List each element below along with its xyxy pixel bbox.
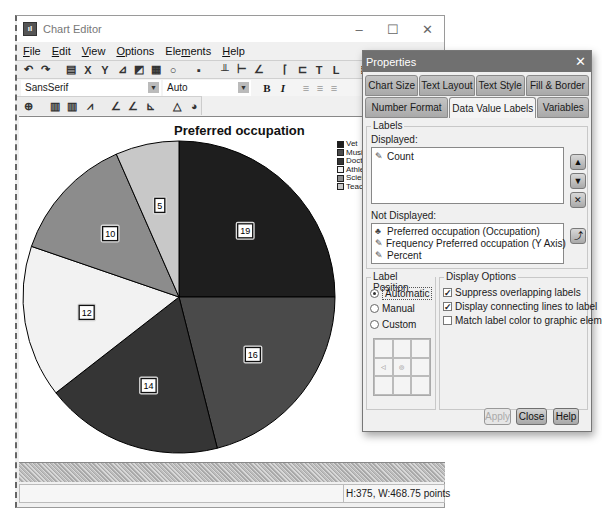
italic-button[interactable]: I <box>275 82 291 94</box>
fill-icon[interactable]: ▦ <box>149 63 163 76</box>
add-to-displayed-button[interactable]: ⤴ <box>570 228 586 244</box>
close-button[interactable]: Close <box>516 408 547 425</box>
apply-button[interactable]: Apply <box>484 408 511 425</box>
custom-position-grid[interactable]: ◁ ◎ <box>373 338 431 396</box>
close-window-button[interactable]: ✕ <box>410 16 444 42</box>
list-item[interactable]: ✎ Frequency Preferred occupation (Y Axis… <box>372 237 563 249</box>
fit-line-icon[interactable]: ∠ <box>252 63 266 76</box>
checkbox-checked[interactable]: ✓ <box>443 302 452 311</box>
font-size-select[interactable]: Auto ▼ <box>163 80 251 96</box>
svg-text:16: 16 <box>248 350 258 360</box>
area-icon[interactable]: ⊾ <box>144 100 157 113</box>
font-size-value: Auto <box>167 82 188 93</box>
select-icon[interactable]: ▪ <box>192 63 206 76</box>
radio-automatic[interactable]: Automatic <box>370 287 432 300</box>
position-cell[interactable] <box>393 339 412 358</box>
close-icon[interactable]: ✕ <box>569 54 591 69</box>
match-label-color-checkbox[interactable]: Match label color to graphic element <box>443 315 602 326</box>
menu-options[interactable]: Options <box>113 45 162 57</box>
radio-button[interactable] <box>370 320 379 329</box>
properties-title-bar[interactable]: Properties ✕ <box>363 51 591 72</box>
clustered-bar-icon[interactable]: ▥ <box>66 100 79 113</box>
data-label[interactable]: 14 <box>139 377 158 395</box>
undo-icon[interactable]: ↶ <box>21 63 35 76</box>
ref-line-x-icon[interactable]: ⊢ <box>235 63 249 76</box>
position-inside-icon[interactable]: ◎ <box>393 358 412 377</box>
not-displayed-list[interactable]: ♣ Preferred occupation (Occupation) ✎ Fr… <box>371 223 564 264</box>
radio-manual[interactable]: Manual <box>370 303 415 314</box>
tab-chart-size[interactable]: Chart Size <box>365 75 418 96</box>
tab-text-style[interactable]: Text Style <box>476 75 525 96</box>
list-item[interactable]: ✎ Count <box>372 150 563 162</box>
position-cell[interactable] <box>411 339 430 358</box>
menu-help[interactable]: Help <box>219 45 253 57</box>
maximize-button[interactable]: ☐ <box>376 16 410 42</box>
checkbox-unchecked[interactable] <box>443 316 452 325</box>
footnote-icon[interactable]: L <box>329 63 343 76</box>
chevron-down-icon[interactable]: ▼ <box>148 82 159 93</box>
position-cell[interactable] <box>393 376 412 395</box>
position-outside-icon[interactable]: ◁ <box>374 358 393 377</box>
align-center-icon[interactable]: ≡ <box>313 81 327 94</box>
scatter-icon[interactable]: ∠ <box>110 100 123 113</box>
scale-alt-icon[interactable]: ◩ <box>132 63 146 76</box>
redo-icon[interactable]: ↷ <box>38 63 52 76</box>
title-icon[interactable]: ⌈ <box>278 63 292 76</box>
suppress-overlapping-checkbox[interactable]: ✓ Suppress overlapping labels <box>443 287 581 298</box>
list-item[interactable]: ✎ Percent <box>372 249 563 261</box>
menu-view[interactable]: View <box>79 45 114 57</box>
data-label[interactable]: 12 <box>77 303 96 321</box>
line-chart-icon[interactable]: ⩘ <box>83 100 96 113</box>
scatter-fit-icon[interactable]: ∠ <box>127 100 140 113</box>
chart-title[interactable]: Preferred occupation <box>174 123 305 138</box>
menu-elements[interactable]: Elements <box>162 45 219 57</box>
crosshair-icon[interactable]: ⊕ <box>22 100 35 113</box>
displayed-list[interactable]: ✎ Count <box>371 147 564 204</box>
pie-explode-icon[interactable]: ◕ <box>188 100 201 113</box>
minimize-button[interactable]: – <box>342 16 376 42</box>
subtitle-icon[interactable]: ⊏ <box>295 63 309 76</box>
radio-custom[interactable]: Custom <box>370 319 416 330</box>
radio-button[interactable] <box>370 289 379 298</box>
data-label[interactable]: 19 <box>236 222 255 240</box>
position-cell[interactable] <box>411 358 430 377</box>
bar-chart-icon[interactable]: ▥ <box>49 100 62 113</box>
move-up-button[interactable]: ▲ <box>570 154 586 170</box>
textbox-icon[interactable]: T <box>312 63 326 76</box>
tab-text-layout[interactable]: Text Layout <box>419 75 474 96</box>
ref-line-y-icon[interactable]: ╨ <box>218 63 232 76</box>
scale-variable-icon: ✎ <box>375 251 384 260</box>
pie-slice-vet[interactable] <box>179 141 335 297</box>
scale-icon[interactable]: ⊿ <box>115 63 129 76</box>
tab-data-value-labels[interactable]: Data Value Labels <box>449 97 536 118</box>
title-bar[interactable]: ıl Chart Editor – ☐ ✕ <box>17 16 444 42</box>
position-cell[interactable] <box>411 376 430 395</box>
data-label[interactable]: 10 <box>101 225 120 243</box>
tab-variables[interactable]: Variables <box>537 97 589 118</box>
align-right-icon[interactable]: ≡ <box>327 81 341 94</box>
position-cell[interactable] <box>374 339 393 358</box>
menu-edit[interactable]: Edit <box>49 45 79 57</box>
radio-button[interactable] <box>370 304 379 313</box>
position-cell[interactable] <box>374 376 393 395</box>
menu-file[interactable]: File <box>20 45 49 57</box>
chevron-down-icon[interactable]: ▼ <box>238 82 249 93</box>
x-axis-icon[interactable]: X <box>81 63 95 76</box>
tab-number-format[interactable]: Number Format <box>365 97 448 118</box>
font-family-select[interactable]: SansSerif ▼ <box>21 80 161 96</box>
properties-icon[interactable]: ▤ <box>64 63 78 76</box>
list-item[interactable]: ♣ Preferred occupation (Occupation) <box>372 225 563 237</box>
data-label[interactable]: 16 <box>243 345 262 363</box>
bold-button[interactable]: B <box>259 82 275 94</box>
tab-fill-border[interactable]: Fill & Border <box>526 75 589 96</box>
connecting-lines-checkbox[interactable]: ✓ Display connecting lines to label <box>443 301 597 312</box>
help-button[interactable]: Help <box>553 408 579 425</box>
remove-button[interactable]: ✕ <box>570 192 586 208</box>
y-axis-icon[interactable]: Y <box>98 63 112 76</box>
align-left-icon[interactable]: ≡ <box>299 81 313 94</box>
checkbox-checked[interactable]: ✓ <box>443 288 452 297</box>
histogram-icon[interactable]: △ <box>171 100 184 113</box>
data-label[interactable]: 5 <box>153 196 167 214</box>
move-down-button[interactable]: ▼ <box>570 173 586 189</box>
lasso-icon[interactable]: ○ <box>166 63 180 76</box>
